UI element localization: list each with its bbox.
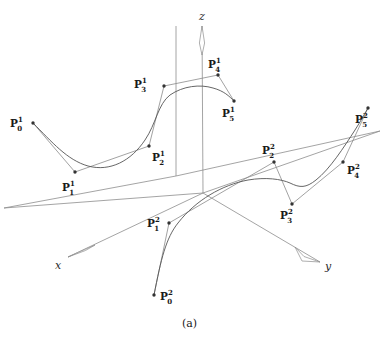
curve-1-label-1: P11: [62, 180, 80, 195]
curve-2-label-1: P21: [147, 216, 165, 231]
z-axis-arrowhead: [199, 26, 204, 55]
x-axis-back-edge: [4, 193, 203, 208]
y-axis-label: y: [325, 261, 331, 272]
curve-2-point-4: [341, 160, 344, 163]
curve-2-point-3: [290, 202, 293, 205]
x-axis-arrowhead: [68, 245, 95, 257]
curve-1-point-0: [31, 121, 34, 124]
curve-2-label-3: P23: [280, 208, 298, 223]
curve-1-label-0: P10: [10, 116, 28, 131]
curve-2-point-1: [167, 221, 170, 224]
curve-2-point-5: [366, 106, 369, 109]
curve-1-label-2: P12: [152, 150, 170, 165]
plane-edge-left: [4, 176, 176, 208]
curve-1-point-3: [162, 84, 165, 87]
curve-2-spline: [154, 108, 368, 295]
curve-1-spline: [33, 86, 234, 168]
curve-2-label-5: P25: [355, 112, 373, 127]
y-axis-line: [203, 193, 320, 262]
axes-group: [4, 26, 380, 262]
curve-1-label-5: P15: [222, 106, 240, 121]
curve-2-control-polygon: [154, 108, 368, 295]
curve-2-label-0: P20: [160, 289, 178, 304]
z-axis-label: z: [199, 11, 205, 22]
curve-2-point-2: [272, 160, 275, 163]
curve-1-point-5: [232, 99, 235, 102]
curve-1-label-3: P13: [134, 77, 152, 92]
curve-2-label-4: P24: [347, 163, 365, 178]
curve-2-point-0: [152, 293, 155, 296]
x-axis-line: [68, 193, 203, 257]
curve-2-label-2: P22: [262, 143, 280, 158]
figure-container: z x y P10 P11 P12 P13 P14 P15 P20 P21 P2…: [0, 0, 383, 337]
figure-canvas: [0, 0, 383, 337]
figure-caption: (a): [182, 318, 197, 329]
curve-1-point-1: [73, 170, 76, 173]
curve-1-point-2: [147, 144, 150, 147]
curve-1-label-4: P14: [208, 57, 226, 72]
x-axis-label: x: [55, 260, 61, 271]
